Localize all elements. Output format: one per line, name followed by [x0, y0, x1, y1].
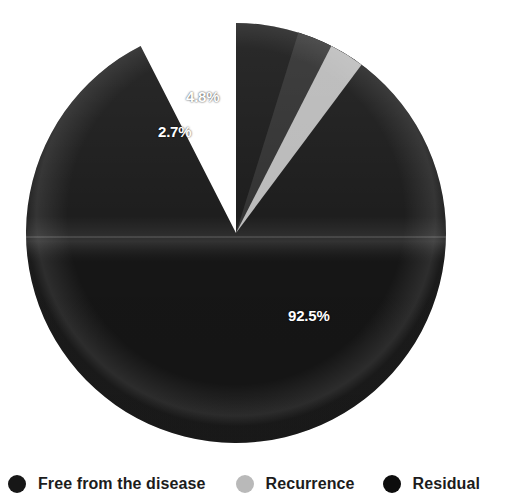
- pie-shading-overlay: [26, 23, 446, 443]
- legend-item-residual[interactable]: Residual: [383, 475, 481, 493]
- legend-label-free-from-the-disease: Free from the disease: [38, 475, 206, 493]
- pie-label-recurrence: 2.7%: [158, 123, 191, 140]
- legend-label-recurrence: Recurrence: [266, 475, 355, 493]
- pie-plot-area: 4.8% 2.7% 92.5%: [0, 0, 526, 452]
- legend-item-recurrence[interactable]: Recurrence: [236, 475, 355, 493]
- legend-item-free-from-the-disease[interactable]: Free from the disease: [8, 475, 206, 493]
- pie-svg: [0, 0, 526, 452]
- legend-marker-icon-recurrence: [236, 475, 254, 493]
- pie-label-free-from-the-disease: 92.5%: [288, 307, 330, 324]
- legend-marker-icon-residual: [383, 475, 401, 493]
- legend-label-residual: Residual: [413, 475, 481, 493]
- chart-legend: Free from the disease Recurrence Residua…: [0, 466, 526, 502]
- legend-marker-icon-free-from-the-disease: [8, 475, 26, 493]
- pie-chart-figure: 4.8% 2.7% 92.5% Free from the disease Re…: [0, 0, 526, 502]
- pie-label-residual: 4.8%: [186, 88, 219, 105]
